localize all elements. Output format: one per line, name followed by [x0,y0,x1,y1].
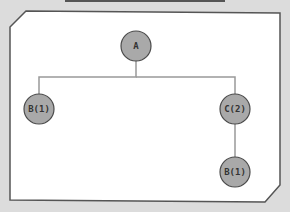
node-label: C(2) [224,104,246,114]
node-label: B(1) [224,167,246,177]
node-label: A [133,41,139,51]
tree-diagram: A B(1) C(2) B(1) [0,0,290,212]
node-c2[interactable]: C(2) [220,94,250,124]
node-b1[interactable]: B(1) [24,94,54,124]
node-a[interactable]: A [121,31,151,61]
node-b1-child[interactable]: B(1) [220,157,250,187]
node-label: B(1) [28,104,50,114]
